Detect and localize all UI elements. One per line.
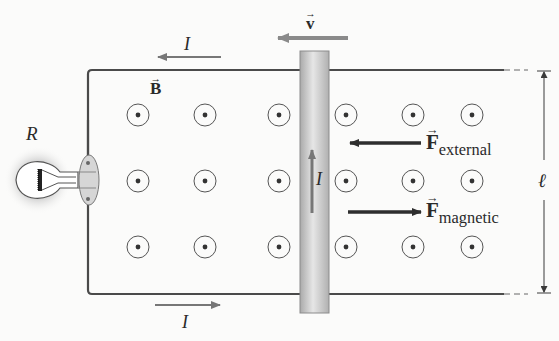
external-force-symbol: F (426, 132, 439, 153)
external-force-label: Fexternal (426, 132, 492, 153)
conducting-rod (300, 51, 329, 313)
external-force-subscript: external (439, 140, 492, 159)
velocity-label: v (306, 15, 315, 32)
field-label: B (150, 80, 161, 97)
current-label-rod: I (316, 170, 322, 188)
magnetic-force-symbol: F (426, 200, 439, 221)
field-vector-symbol: B (150, 80, 161, 97)
current-label-bottom: I (182, 313, 188, 331)
resistance-label: R (26, 124, 38, 143)
length-label: ℓ (538, 171, 546, 190)
current-label-top: I (184, 35, 190, 53)
rail-circuit-diagram: R I I I B v Fexternal Fmagnetic ℓ (0, 0, 559, 341)
magnetic-force-label: Fmagnetic (426, 200, 499, 221)
velocity-vector-symbol: v (306, 15, 315, 32)
light-bulb-icon (4, 146, 99, 214)
magnetic-force-subscript: magnetic (439, 208, 499, 227)
